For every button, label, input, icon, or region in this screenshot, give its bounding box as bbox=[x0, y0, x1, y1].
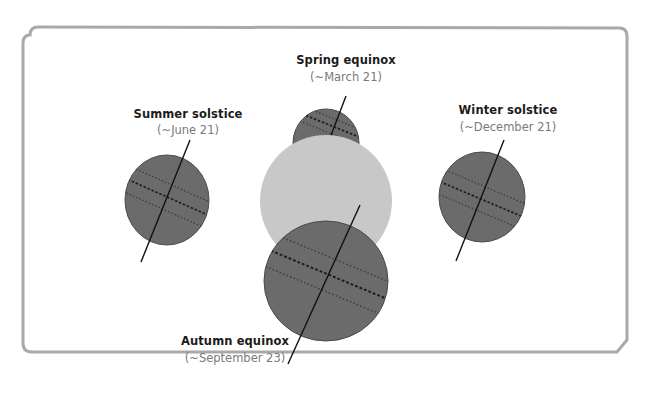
seasons-diagram: Summer solstice (~June 21) Spring equino… bbox=[0, 0, 649, 398]
label-summer-solstice: Summer solstice bbox=[134, 107, 243, 121]
label-spring-equinox: Spring equinox bbox=[296, 53, 396, 67]
date-winter-solstice: (~December 21) bbox=[460, 120, 557, 134]
label-autumn-equinox: Autumn equinox bbox=[181, 334, 289, 348]
date-spring-equinox: (~March 21) bbox=[310, 70, 382, 84]
date-autumn-equinox: (~September 23) bbox=[185, 351, 285, 365]
globe-summer bbox=[125, 155, 209, 245]
label-winter-solstice: Winter solstice bbox=[459, 103, 558, 117]
date-summer-solstice: (~June 21) bbox=[157, 123, 219, 137]
